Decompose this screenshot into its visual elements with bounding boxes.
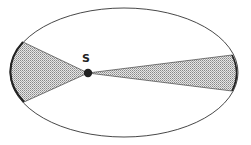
sun-label: S bbox=[82, 52, 90, 65]
kepler-diagram bbox=[0, 0, 251, 145]
sector-left bbox=[10, 42, 88, 102]
sector-right bbox=[88, 55, 237, 91]
sun-icon bbox=[84, 69, 92, 77]
